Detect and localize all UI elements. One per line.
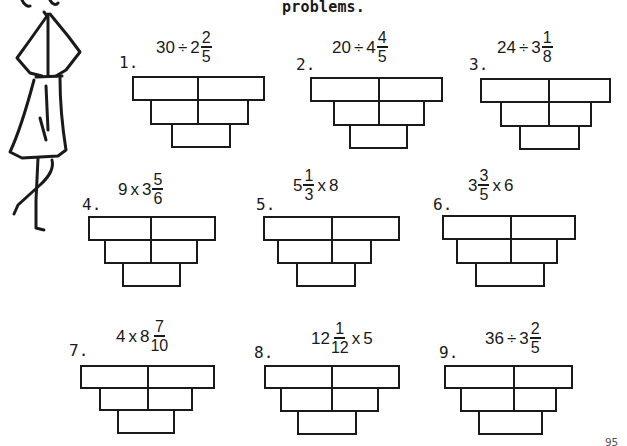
numerator: 4 [377, 30, 388, 48]
answer-cell-middle-left[interactable] [500, 101, 550, 127]
operator: x [128, 328, 137, 345]
answer-cell-top-right[interactable] [331, 216, 400, 241]
whole-part: 3 [468, 177, 477, 194]
numerator: 2 [201, 30, 212, 48]
problem-number: 5. [256, 197, 275, 213]
whole-part: 3 [142, 181, 151, 198]
operator: ÷ [519, 39, 528, 56]
numerator: 3 [478, 168, 489, 186]
mixed-number: 2 2 5 [190, 30, 211, 64]
problem-number: 8. [254, 345, 273, 361]
dividend: 36 [485, 330, 504, 347]
answer-cell-top-left[interactable] [263, 216, 333, 241]
answer-cell-top-left[interactable] [88, 216, 152, 241]
operator: ÷ [178, 39, 187, 56]
problem-expression: 20 ÷ 4 4 5 [332, 30, 388, 64]
answer-cell-top-right[interactable] [150, 216, 216, 241]
operator: ÷ [507, 330, 516, 347]
fraction: 5 6 [152, 172, 163, 206]
answer-cell-bottom[interactable] [349, 124, 408, 149]
whole-part: 2 [190, 39, 199, 56]
problem-number: 1. [119, 55, 138, 71]
answer-cell-bottom[interactable] [117, 409, 175, 434]
problem-number: 3. [469, 57, 488, 73]
answer-cell-middle-right[interactable] [513, 387, 557, 412]
multiplier: 5 [363, 330, 372, 347]
multiplicand: 9 [118, 181, 127, 198]
problem-expression: 3 3 5 x 6 [468, 168, 513, 202]
page-number: 95 [605, 436, 618, 446]
answer-cell-top-right[interactable] [331, 365, 400, 389]
denominator: 3 [304, 186, 313, 202]
answer-cell-bottom[interactable] [171, 123, 231, 148]
answer-cell-middle-right[interactable] [510, 238, 558, 264]
fraction: 1 8 [542, 30, 553, 64]
dividend: 20 [332, 39, 351, 56]
mixed-number: 3 1 8 [531, 30, 552, 64]
answer-cell-middle-right[interactable] [150, 239, 198, 264]
answer-cell-middle-left[interactable] [280, 387, 333, 412]
numerator: 1 [334, 321, 345, 339]
answer-cell-top-left[interactable] [80, 365, 149, 389]
answer-cell-bottom[interactable] [297, 410, 357, 435]
answer-cell-top-right[interactable] [197, 76, 265, 101]
problem-expression: 4 x 8 7 10 [116, 319, 168, 353]
answer-cell-bottom[interactable] [296, 262, 356, 287]
mixed-number: 4 4 5 [366, 30, 387, 64]
answer-cell-bottom[interactable] [122, 262, 181, 287]
answer-cell-top-left[interactable] [480, 78, 550, 103]
mixed-number: 3 2 5 [519, 321, 540, 355]
problem-expression: 9 x 3 5 6 [118, 172, 163, 206]
answer-cell-middle-left[interactable] [104, 239, 152, 264]
answer-cell-middle-left[interactable] [150, 99, 199, 125]
problem-number: 4. [82, 197, 101, 213]
problem-expression: 36 ÷ 3 2 5 [485, 321, 541, 355]
answer-cell-bottom[interactable] [519, 125, 580, 150]
numerator: 5 [152, 172, 163, 190]
whole-part: 3 [519, 330, 528, 347]
answer-cell-middle-left[interactable] [460, 387, 515, 412]
answer-cell-top-left[interactable] [310, 77, 380, 102]
fraction: 3 5 [478, 168, 489, 202]
mixed-number: 8 7 10 [140, 319, 168, 353]
answer-cell-bottom[interactable] [475, 262, 545, 287]
fraction: 1 3 [303, 168, 314, 202]
answer-cell-top-left[interactable] [444, 365, 515, 389]
fraction: 1 12 [331, 321, 349, 355]
answer-cell-top-left[interactable] [264, 365, 333, 389]
answer-cell-middle-right[interactable] [548, 101, 592, 127]
multiplicand: 4 [116, 328, 125, 345]
instructions-fragment: problems. [282, 0, 365, 16]
answer-cell-top-left[interactable] [132, 76, 199, 101]
operator: x [492, 177, 501, 194]
answer-cell-middle-left[interactable] [277, 239, 333, 264]
answer-cell-top-left[interactable] [442, 215, 512, 240]
whole-part: 4 [366, 39, 375, 56]
answer-cell-top-right[interactable] [147, 365, 215, 389]
operator: ÷ [354, 39, 363, 56]
denominator: 10 [150, 337, 168, 353]
answer-cell-middle-left[interactable] [99, 387, 149, 411]
answer-cell-middle-right[interactable] [197, 99, 249, 125]
answer-cell-middle-right[interactable] [331, 239, 372, 264]
problem-expression: 30 ÷ 2 2 5 [156, 30, 212, 64]
whole-part: 5 [293, 177, 302, 194]
answer-cell-middle-left[interactable] [456, 238, 512, 264]
answer-cell-top-right[interactable] [378, 77, 443, 102]
answer-cell-top-right[interactable] [548, 78, 611, 103]
denominator: 6 [153, 190, 162, 206]
answer-cell-top-right[interactable] [510, 215, 576, 240]
answer-cell-middle-left[interactable] [333, 100, 380, 126]
whole-part: 12 [311, 330, 330, 347]
answer-cell-middle-right[interactable] [147, 387, 193, 411]
answer-cell-middle-right[interactable] [331, 387, 379, 412]
answer-cell-bottom[interactable] [478, 410, 543, 435]
operator: x [130, 181, 139, 198]
answer-cell-top-right[interactable] [513, 365, 573, 389]
fraction: 2 5 [530, 321, 541, 355]
numerator: 7 [154, 319, 165, 337]
numerator: 2 [530, 321, 541, 339]
answer-cell-middle-right[interactable] [378, 100, 425, 126]
problem-number: 7. [69, 343, 88, 359]
fraction: 4 5 [377, 30, 388, 64]
